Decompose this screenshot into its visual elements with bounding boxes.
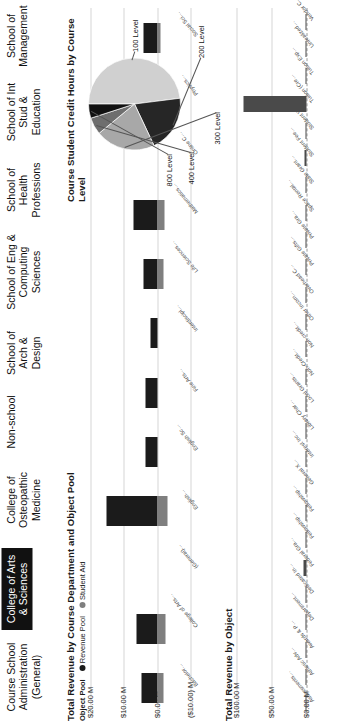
school-header-label: School of Management — [4, 5, 28, 66]
legend-label-revenue-pool: Revenue Pool — [77, 616, 86, 663]
school-header-4[interactable]: School of Arch & Design — [4, 320, 41, 386]
chart2-category-label: General X… — [290, 458, 314, 485]
chart1-bar-revenue-pool — [133, 200, 156, 230]
school-header-label: College of Osteopathic Medicine — [4, 472, 41, 528]
pie-title: Course Student Credit Hours by Course Le… — [64, 4, 86, 202]
chart1-bar-student-aid — [157, 673, 163, 703]
chart1-bar-revenue-pool — [106, 496, 157, 526]
chart2-ytick-0: $100.00 M — [231, 683, 240, 718]
chart2-category-label: Library Char… — [287, 400, 315, 432]
school-header-label: School of Eng & Computing Sciences — [4, 234, 41, 309]
chart2-category-label: Interest Inc… — [289, 429, 315, 458]
pie-label-200-level: 200 Level — [196, 25, 205, 58]
legend-swatch-revenue-pool — [79, 665, 85, 671]
chart1-bar[interactable] — [90, 200, 190, 230]
legend-swatch-student-aid — [79, 602, 85, 608]
chart1-bar[interactable] — [90, 673, 190, 703]
school-header-label: School of Int Stud & Education — [4, 83, 41, 141]
pie-slice-100-level[interactable] — [88, 58, 180, 104]
chart1-bar-student-aid — [157, 496, 167, 526]
chart2-category-label: Non-credit… — [290, 321, 315, 349]
chart2-category-label: Non-Credit… — [289, 348, 315, 377]
pie-label-800-level: 800 Level — [164, 154, 173, 187]
school-header-7[interactable]: School of Int Stud & Education — [4, 76, 41, 148]
pie-label-300-level: 300 Level — [212, 112, 221, 145]
chart-credit-hours-by-level: Course Student Credit Hours by Course Le… — [64, 4, 214, 204]
chart1-bar-revenue-pool — [150, 318, 157, 348]
school-header-2[interactable]: College of Osteopathic Medicine — [4, 460, 41, 540]
chart2-category-label: Fellowship… — [289, 512, 314, 540]
chart2-category-label: Private Gifts… — [287, 236, 315, 267]
chart1-title: Total Revenue by Course Department and O… — [64, 472, 75, 721]
legend-label-student-aid: Student Aid — [77, 562, 86, 600]
school-header-label: School of Arch & Design — [4, 331, 41, 375]
chart2-category-label: Unrealized… — [289, 20, 314, 49]
school-header-1[interactable]: College of Arts & Sciences — [1, 548, 32, 630]
chart1-bar-student-aid — [157, 614, 165, 644]
pie-label-100-level: 100 Level — [130, 19, 139, 52]
chart1-bar[interactable] — [90, 555, 190, 585]
chart2-bar[interactable] — [243, 96, 306, 112]
chart2-gridline — [271, 8, 272, 718]
chart-revenue-by-object: Total Revenue by Object $100.00 M$50.00 … — [222, 0, 345, 726]
school-header-5[interactable]: School of Eng & Computing Sciences — [4, 230, 41, 314]
chart2-category-label: Vendor C… — [291, 0, 314, 22]
chart1-bar-revenue-pool — [136, 614, 157, 644]
chart1-bar-revenue-pool — [143, 259, 157, 289]
dashboard: Course School Administration (General)Co… — [0, 0, 345, 726]
pie-label-400-level: 400 Level — [186, 152, 195, 185]
school-header-label: School of Health Professions — [4, 163, 41, 218]
chart2-ytick-1: $50.00 M — [266, 687, 275, 718]
chart1-bar[interactable] — [90, 378, 190, 408]
rotated-dashboard-wrapper: Course School Administration (General)Co… — [0, 0, 345, 726]
chart1-bar[interactable] — [90, 318, 190, 348]
chart1-bar-revenue-pool — [145, 378, 157, 408]
school-filter-band[interactable]: Course School Administration (General)Co… — [0, 0, 64, 726]
chart2-category-label: Fellowship… — [289, 485, 314, 513]
chart1-bar-student-aid — [157, 259, 163, 289]
chart2-category-label: Awards & P… — [288, 619, 315, 649]
chart1-bar-revenue-pool — [145, 437, 156, 467]
school-header-label: College of Arts & Sciences — [4, 555, 28, 623]
chart2-plot: $100.00 M$50.00 M$0.00 MAssessments…Athl… — [236, 8, 306, 718]
school-header-8[interactable]: School of Management — [4, 2, 29, 70]
pie-svg — [86, 56, 182, 152]
chart2-category-label: Tuition Exp… — [289, 47, 315, 76]
chart1-bar[interactable] — [90, 614, 190, 644]
chart2-category-label: Student Fee… — [287, 127, 315, 158]
chart1-bar[interactable] — [90, 259, 190, 289]
chart2-category-label: Department… — [288, 592, 315, 623]
chart1-bar[interactable] — [90, 496, 190, 526]
school-header-3[interactable]: Non-school — [4, 390, 16, 454]
school-header-label: Non-school — [4, 395, 16, 448]
school-header-label: Course School Administration (General) — [4, 643, 41, 712]
school-header-0[interactable]: Course School Administration (General) — [4, 638, 41, 716]
school-header-6[interactable]: School of Health Professions — [4, 154, 41, 226]
chart2-gridline — [236, 8, 237, 718]
chart1-bar-revenue-pool — [141, 673, 156, 703]
chart1-bar-student-aid — [157, 200, 164, 230]
pie-graphic[interactable]: 100 Level200 Level300 Level400 Level800 … — [86, 56, 182, 152]
chart1-bar[interactable] — [90, 437, 190, 467]
